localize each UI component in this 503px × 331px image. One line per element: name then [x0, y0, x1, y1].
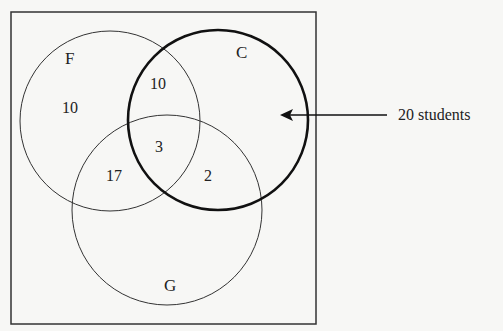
set-label-g: G [164, 276, 176, 295]
region-f-g-only: 17 [106, 167, 122, 184]
region-c-g-only: 2 [204, 167, 212, 184]
region-f-c-g: 3 [155, 138, 163, 155]
region-f-only: 10 [62, 99, 78, 116]
region-f-c-only: 10 [150, 75, 166, 92]
set-label-c: C [236, 43, 247, 62]
venn-diagram: F C G 10 10 3 17 2 20 students [0, 0, 503, 331]
annotation-label: 20 students [398, 106, 470, 123]
circle-c [128, 30, 308, 210]
set-label-f: F [65, 49, 74, 68]
circle-f [20, 31, 200, 211]
